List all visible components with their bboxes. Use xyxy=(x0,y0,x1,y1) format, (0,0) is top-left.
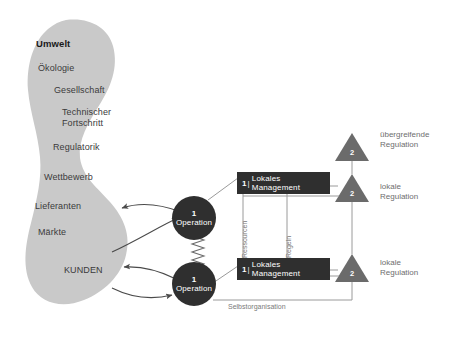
regulator-label-local-lower-line2: Regulation xyxy=(380,268,418,278)
local-management-box-2-label: Lokales Management xyxy=(252,260,330,278)
regulator-triangle-local-lower-number: 2 xyxy=(345,269,359,278)
regulator-label-local-lower: lokale Regulation xyxy=(380,258,418,278)
diagram-shapes-layer xyxy=(0,0,456,340)
operation-node-2-number: 1 xyxy=(192,275,197,284)
operation-node-2[interactable]: 1 Operation xyxy=(172,262,216,306)
regulator-triangle-local-upper-number: 2 xyxy=(345,189,359,198)
operation-node-1[interactable]: 1 Operation xyxy=(172,196,216,240)
local-management-box-1[interactable]: 1 | Lokales Management xyxy=(237,172,330,194)
local-management-box-2[interactable]: 1 | Lokales Management xyxy=(237,258,330,280)
regulator-label-local-upper-line2: Regulation xyxy=(380,192,418,202)
operation-node-1-number: 1 xyxy=(192,209,197,218)
environment-title: Umwelt xyxy=(36,38,70,49)
arrow-environment-to-op2 xyxy=(112,288,172,298)
regulator-label-local-upper-line1: lokale xyxy=(380,182,418,192)
local-management-box-2-number: 1 xyxy=(242,265,247,274)
regulator-label-local-upper: lokale Regulation xyxy=(380,182,418,202)
environment-item-lieferanten: Lieferanten xyxy=(35,201,81,211)
local-management-box-2-separator: | xyxy=(248,265,250,274)
operation-node-1-label: Operation xyxy=(176,218,212,227)
local-management-box-1-separator: | xyxy=(248,179,250,188)
regulator-label-overarching-line2: Regulation xyxy=(380,140,429,150)
regulator-label-overarching: übergreifende Regulation xyxy=(380,130,429,150)
flow-label-regeln: Regeln xyxy=(285,236,292,258)
local-management-box-1-label: Lokales Management xyxy=(252,174,330,192)
regulator-label-overarching-line1: übergreifende xyxy=(380,130,429,140)
environment-item-maerkte: Märkte xyxy=(38,227,66,237)
environment-item-regulatorik: Regulatorik xyxy=(53,142,100,152)
environment-item-kunden: KUNDEN xyxy=(64,265,103,275)
operation-node-2-label: Operation xyxy=(176,284,212,293)
environment-item-fortschritt: Fortschritt xyxy=(62,118,103,128)
environment-item-oekologie: Ökologie xyxy=(38,63,74,73)
environment-item-gesellschaft: Gesellschaft xyxy=(54,85,105,95)
arrow-op2-to-environment xyxy=(124,267,176,279)
regulator-triangle-overarching-number: 2 xyxy=(345,148,359,157)
diagram-canvas: Umwelt Ökologie Gesellschaft Technischer… xyxy=(0,0,456,340)
regulator-label-local-lower-line1: lokale xyxy=(380,258,418,268)
environment-item-wettbewerb: Wettbewerb xyxy=(44,172,93,182)
flow-label-ressourcen: Ressourcen xyxy=(241,221,248,258)
connector-op1-to-mgmt1 xyxy=(208,178,238,200)
flow-label-selbstorganisation: Selbstorganisation xyxy=(228,303,286,310)
environment-item-technischer: Technischer xyxy=(62,107,111,117)
local-management-box-1-number: 1 xyxy=(242,179,247,188)
